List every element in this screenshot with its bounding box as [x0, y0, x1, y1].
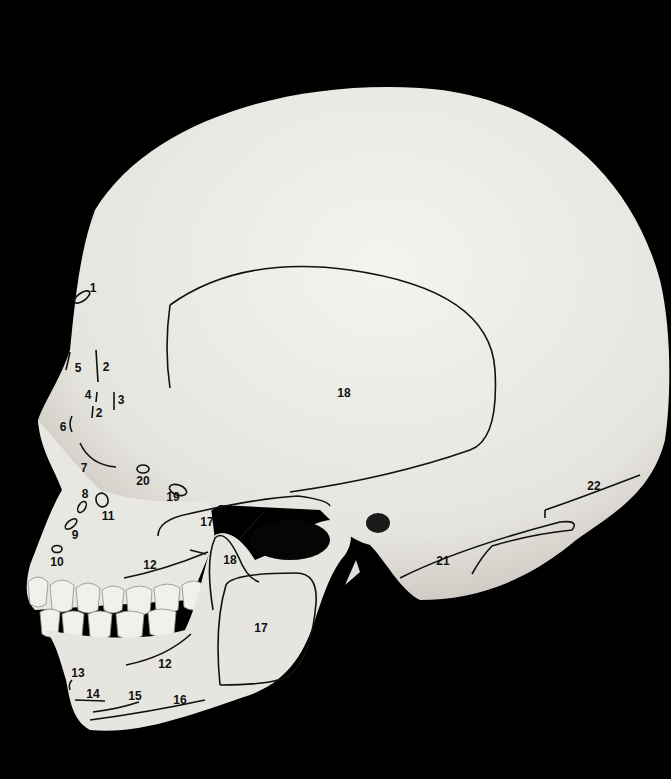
- mandibular-notch: [250, 520, 330, 560]
- skull-illustration: [0, 0, 671, 779]
- label-13: 13: [71, 667, 84, 679]
- label-18-lower: 18: [223, 554, 236, 566]
- label-12-lower: 12: [158, 658, 171, 670]
- label-5: 5: [75, 362, 82, 374]
- label-9: 9: [72, 529, 79, 541]
- label-15: 15: [128, 690, 141, 702]
- label-7: 7: [81, 462, 88, 474]
- label-19: 19: [166, 491, 179, 503]
- label-4: 4: [85, 389, 92, 401]
- styloid-process: [345, 560, 360, 585]
- label-22: 22: [587, 480, 600, 492]
- label-20: 20: [136, 475, 149, 487]
- label-3: 3: [118, 394, 125, 406]
- teeth: [28, 577, 204, 639]
- label-1: 1: [90, 282, 97, 294]
- skull-figure: 1 2 2 3 4 5 6 7 8 9 10 11 12 12 13 14 15…: [0, 0, 671, 779]
- label-6: 6: [60, 421, 67, 433]
- label-2-lower: 2: [96, 407, 103, 419]
- external-acoustic-meatus: [366, 513, 390, 533]
- label-16: 16: [173, 694, 186, 706]
- label-14: 14: [86, 688, 99, 700]
- label-10: 10: [50, 556, 63, 568]
- label-8: 8: [82, 488, 89, 500]
- label-2-upper: 2: [103, 361, 110, 373]
- label-21: 21: [436, 555, 449, 567]
- label-12-upper: 12: [143, 559, 156, 571]
- label-17-lower: 17: [254, 622, 267, 634]
- label-17-upper: 17: [200, 516, 213, 528]
- label-11: 11: [102, 510, 115, 522]
- label-18-upper: 18: [337, 387, 350, 399]
